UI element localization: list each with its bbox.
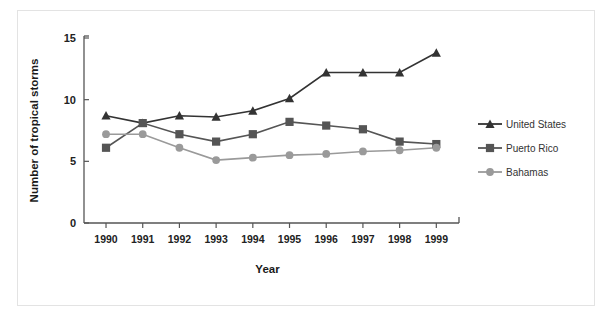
legend-label: United States	[506, 119, 566, 130]
data-point-united-states-1990	[101, 111, 110, 120]
data-point-puerto-rico-1990	[102, 144, 110, 152]
data-point-bahamas-1993	[212, 156, 220, 164]
y-tick-label: 5	[70, 155, 76, 167]
x-tick-label: 1997	[351, 233, 375, 245]
data-point-united-states-1999	[432, 48, 441, 57]
data-point-bahamas-1998	[396, 146, 404, 154]
data-point-puerto-rico-1998	[396, 138, 404, 146]
series-line-united-states	[106, 53, 436, 123]
x-axis-title: Year	[255, 263, 280, 275]
data-point-bahamas-1997	[359, 148, 367, 156]
data-point-united-states-1995	[285, 94, 294, 103]
data-point-bahamas-1996	[322, 150, 330, 158]
y-axis-title: Number of tropical storms	[28, 59, 40, 203]
legend-label: Bahamas	[506, 167, 548, 178]
x-tick-label: 1999	[425, 233, 449, 245]
x-tick-label: 1992	[168, 233, 192, 245]
series-line-puerto-rico	[106, 122, 436, 148]
legend-item-bahamas[interactable]: Bahamas	[478, 167, 548, 178]
data-point-bahamas-1995	[286, 151, 294, 159]
data-point-puerto-rico-1993	[212, 138, 220, 146]
x-tick-label: 1996	[315, 233, 339, 245]
data-point-puerto-rico-1992	[175, 130, 183, 138]
chart-figure: 0510151990199119921993199419951996199719…	[0, 0, 613, 319]
y-tick-label: 0	[70, 217, 76, 229]
x-tick-label: 1998	[388, 233, 412, 245]
x-tick-label: 1995	[278, 233, 302, 245]
x-tick-label: 1993	[204, 233, 228, 245]
data-point-puerto-rico-1997	[359, 125, 367, 133]
data-point-bahamas-1990	[102, 130, 110, 138]
x-tick-label: 1990	[94, 233, 118, 245]
data-point-puerto-rico-1991	[139, 119, 147, 127]
legend-marker-circle	[486, 168, 494, 176]
data-point-bahamas-1992	[176, 144, 184, 152]
data-point-bahamas-1994	[249, 154, 257, 162]
data-point-puerto-rico-1995	[285, 118, 293, 126]
line-chart: 0510151990199119921993199419951996199719…	[0, 0, 613, 319]
data-point-puerto-rico-1996	[322, 121, 330, 129]
legend-marker-square	[486, 144, 494, 152]
data-point-bahamas-1999	[432, 144, 440, 152]
data-point-bahamas-1991	[139, 130, 147, 138]
legend-item-united-states[interactable]: United States	[478, 119, 566, 130]
y-tick-label: 15	[64, 32, 76, 44]
legend-item-puerto-rico[interactable]: Puerto Rico	[478, 143, 559, 154]
y-tick-label: 10	[64, 94, 76, 106]
data-point-puerto-rico-1994	[249, 130, 257, 138]
x-tick-label: 1991	[131, 233, 155, 245]
legend-label: Puerto Rico	[506, 143, 559, 154]
x-tick-label: 1994	[241, 233, 265, 245]
